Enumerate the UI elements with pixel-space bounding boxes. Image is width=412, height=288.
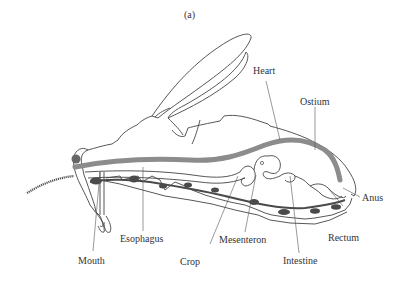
forewing: [152, 34, 251, 118]
crop: [240, 166, 255, 186]
antenna: [27, 176, 74, 193]
hindwing: [168, 52, 248, 118]
label-esophagus: Esophagus: [120, 234, 163, 244]
mesenteron: [254, 156, 280, 179]
label-crop: Crop: [180, 257, 200, 267]
wings: [152, 34, 251, 118]
brain: [72, 155, 81, 164]
label-intestine: Intestine: [283, 256, 317, 266]
label-heart: Heart: [253, 66, 275, 76]
rectum: [310, 184, 346, 198]
label-mouth: Mouth: [78, 256, 105, 266]
dorsal-vessel-heart: [75, 140, 340, 180]
label-anus: Anus: [362, 193, 383, 203]
insect-anatomy-diagram: [0, 0, 412, 288]
label-mesenteron: Mesenteron: [219, 235, 266, 245]
label-ostium: Ostium: [300, 97, 329, 107]
ventral-nerve-cord: [90, 176, 345, 216]
body-outline: [73, 115, 355, 232]
panel-label: (a): [184, 9, 195, 20]
label-rectum: Rectum: [328, 233, 359, 243]
